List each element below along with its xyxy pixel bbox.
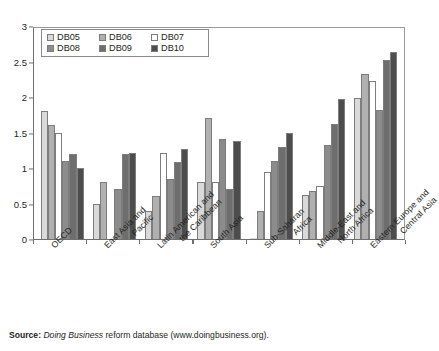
bar-group xyxy=(36,28,88,239)
legend-swatch-icon xyxy=(151,45,158,52)
bar xyxy=(55,133,62,240)
bar xyxy=(100,182,107,239)
bar-group xyxy=(297,28,349,239)
bar xyxy=(77,168,84,239)
legend-swatch-icon xyxy=(99,34,106,41)
bar xyxy=(383,60,390,239)
legend-label: DB08 xyxy=(57,44,80,53)
legend-item-db09: DB09 xyxy=(99,44,151,53)
legend-item-db10: DB10 xyxy=(151,44,203,53)
y-axis-tick-label: 2 xyxy=(22,93,27,103)
source-rest: reform database (www.doingbusiness.org). xyxy=(103,330,269,340)
bar xyxy=(93,204,100,240)
bar xyxy=(160,153,167,239)
bar-group xyxy=(245,28,297,239)
legend-label: DB05 xyxy=(57,33,80,42)
legend-item-db06: DB06 xyxy=(99,33,151,42)
source-label: Source: xyxy=(9,330,41,340)
source-publication: Doing Business xyxy=(43,330,103,340)
y-axis-tick-label: 2.5 xyxy=(14,58,27,68)
y-axis-tick-label: 1.5 xyxy=(14,129,27,139)
bar xyxy=(309,191,316,239)
legend-label: DB09 xyxy=(109,44,132,53)
legend-item-db05: DB05 xyxy=(47,33,99,42)
legend-label: DB10 xyxy=(161,44,184,53)
x-axis-labels: OECDEast Asia andPacificLatin American a… xyxy=(33,243,405,323)
legend-label: DB06 xyxy=(109,33,132,42)
bar xyxy=(324,145,331,239)
y-axis-tick-label: 0.5 xyxy=(14,200,27,210)
legend-swatch-icon xyxy=(47,34,54,41)
y-axis-tick-label: 3 xyxy=(22,22,27,32)
bar xyxy=(264,172,271,239)
bar xyxy=(257,211,264,239)
bar xyxy=(250,238,257,239)
legend-item-db07: DB07 xyxy=(151,33,203,42)
legend-swatch-icon xyxy=(99,45,106,52)
y-axis: 00.511.522.53 xyxy=(0,27,33,240)
bar-group xyxy=(141,28,193,239)
legend-row-1: DB05DB06DB07 xyxy=(47,33,203,42)
legend-swatch-icon xyxy=(151,34,158,41)
y-axis-tick-label: 0 xyxy=(22,235,27,245)
bar-group xyxy=(88,28,140,239)
bar xyxy=(316,186,323,239)
legend-label: DB07 xyxy=(161,33,184,42)
bar xyxy=(376,110,383,239)
bar xyxy=(390,52,397,239)
bar xyxy=(69,154,76,239)
y-axis-tick-label: 1 xyxy=(22,164,27,174)
legend-row-2: DB08DB09DB10 xyxy=(47,44,203,53)
x-axis-tick-mark xyxy=(405,240,406,244)
bar xyxy=(48,125,55,239)
legend-swatch-icon xyxy=(47,45,54,52)
legend-item-db08: DB08 xyxy=(47,44,99,53)
bar xyxy=(41,111,48,239)
source-note: Source: Doing Business reform database (… xyxy=(9,330,269,341)
chart-legend: DB05DB06DB07 DB08DB09DB10 xyxy=(41,29,209,57)
